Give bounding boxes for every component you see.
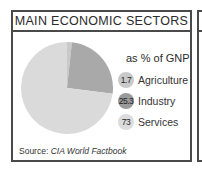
- source-note: Source: CIA World Factbook: [19, 146, 126, 156]
- legend-item-agriculture: 1.7 Agriculture: [118, 69, 188, 90]
- legend-label: Services: [138, 116, 178, 128]
- pie-slice-industry: [67, 42, 113, 94]
- panel-title: MAIN ECONOMIC SECTORS: [13, 12, 190, 32]
- legend-label: Agriculture: [138, 74, 188, 86]
- value-badge: 25.3: [118, 93, 134, 109]
- economic-sectors-panel: MAIN ECONOMIC SECTORS as % of GNP 1.7 Ag…: [11, 10, 192, 162]
- value-badge: 1.7: [118, 72, 134, 88]
- chart-subtitle: as % of GNP: [126, 52, 190, 64]
- adjacent-panel: [197, 10, 202, 162]
- legend-item-services: 73 Services: [118, 111, 188, 132]
- legend-label: Industry: [138, 95, 175, 107]
- pie-chart: [21, 42, 113, 134]
- value-badge: 73: [118, 114, 134, 130]
- source-prefix: Source:: [19, 146, 51, 156]
- legend-item-industry: 25.3 Industry: [118, 90, 188, 111]
- legend: 1.7 Agriculture 25.3 Industry 73 Service…: [118, 69, 188, 132]
- source-name: CIA World Factbook: [51, 146, 127, 156]
